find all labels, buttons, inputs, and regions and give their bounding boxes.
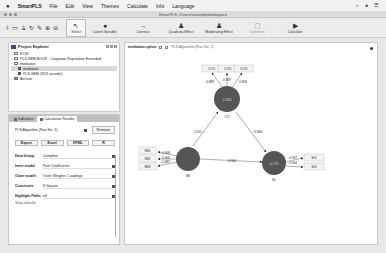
svg-text:IM: IM (186, 174, 190, 178)
results-icon (40, 118, 43, 121)
project-explorer-title: Project Explorer (18, 44, 49, 49)
tab-pls-algorithm[interactable]: PLS Algorithm (Run No. 1) (171, 45, 213, 49)
r-button[interactable]: R (92, 140, 115, 146)
prop-inner-model: Inner model Path Coefficients (15, 161, 115, 171)
svg-text:SL: SL (272, 178, 276, 182)
window-title: SmartPLS: /Users/smartpls/workspace (0, 12, 386, 17)
model-canvas[interactable]: mediation.splsm PLS Algorithm (Run No. 1… (124, 42, 378, 245)
svg-text:0.944: 0.944 (289, 161, 297, 165)
settings-icon[interactable] (370, 47, 373, 50)
folder-icon (11, 45, 16, 49)
maximize-icon[interactable] (114, 45, 117, 48)
menu-file[interactable]: File (50, 3, 58, 9)
svg-text:0.908: 0.908 (162, 151, 170, 155)
svg-text:0.887: 0.887 (162, 160, 170, 164)
zoom-in-icon[interactable]: ⊕ (45, 24, 50, 31)
svg-text:SI1: SI1 (311, 156, 316, 160)
dataset-icon (18, 72, 21, 75)
show-defaults-link[interactable]: Show defaults (15, 201, 119, 205)
toolbar: ⤓ ▭ ♙ ↻ ✎ ⊕ ⊖ ↖ Select ● Latent Variable… (0, 18, 386, 38)
menu-info[interactable]: Info (156, 3, 164, 9)
minimize-icon[interactable] (110, 45, 113, 48)
remove-button[interactable]: Remove (92, 126, 115, 134)
svg-text:0.511: 0.511 (194, 130, 202, 134)
menu-view[interactable]: View (82, 3, 93, 9)
user-icon[interactable]: ● (365, 2, 368, 9)
archive-icon (14, 77, 18, 80)
chevron-down-icon[interactable] (84, 129, 87, 132)
path-diagram: CO1 CO2 CO3 IM1 IM2 IM3 SI1 SI2 0.889 0.… (125, 51, 379, 246)
menu-calculate[interactable]: Calculate (127, 3, 148, 9)
collapse-icon[interactable] (106, 45, 109, 48)
highlight-paths-select[interactable]: off (43, 194, 112, 199)
svg-text:0.364: 0.364 (254, 130, 262, 134)
prop-constructs: Constructs R Square (15, 181, 115, 191)
svg-text:0.564: 0.564 (228, 159, 236, 163)
rotate-icon[interactable]: ↻ (29, 24, 34, 31)
close-tab-icon[interactable] (159, 46, 162, 49)
prop-data-group: Data Group Complete (15, 151, 115, 161)
tab-calculation-results[interactable]: Calculation Results (37, 116, 78, 122)
results-panel: Indicators Calculation Results PLS Algor… (8, 114, 120, 245)
svg-text:0.334: 0.334 (223, 98, 232, 102)
connect-button[interactable]: → Connect (124, 19, 162, 37)
title-bar: SmartPLS: /Users/smartpls/workspace (0, 11, 386, 18)
zoom-out-icon[interactable]: ⊖ (53, 24, 58, 31)
model-icon (18, 67, 21, 70)
import-icon[interactable]: ⤓ (6, 24, 9, 31)
construct-im (176, 147, 200, 171)
latent-variable-button[interactable]: ● Latent Variable (86, 19, 124, 37)
menu-themes[interactable]: Themes (101, 3, 119, 9)
outer-model-select[interactable]: Outer Weights / Loadings (43, 174, 112, 179)
menu-edit[interactable]: Edit (66, 3, 75, 9)
constructs-select[interactable]: R Square (43, 184, 112, 189)
tab-indicators[interactable]: Indicators (11, 116, 37, 122)
new-project-icon[interactable]: ▭ (12, 24, 18, 31)
tab-mediation-model[interactable]: mediation.splsm (128, 45, 156, 49)
svg-text:0.889: 0.889 (206, 80, 214, 84)
prop-highlight-paths: Highlight Paths off (15, 191, 115, 201)
person-icon: ♟ (178, 22, 184, 30)
scrollbar[interactable] (115, 155, 116, 237)
search-icon[interactable]: ⌕ (356, 2, 359, 9)
quadratic-effect-button[interactable]: ♟ Quadratic Effect (162, 19, 200, 37)
folder-icon (14, 52, 18, 55)
circle-icon: ● (103, 22, 107, 30)
algorithm-select[interactable]: PLS Algorithm (Run No. 1) (15, 128, 84, 132)
apple-icon[interactable]: ● (6, 3, 10, 9)
svg-text:CO: CO (225, 115, 230, 119)
comment-icon: ▢ (254, 22, 261, 30)
arrow-icon: → (140, 22, 147, 30)
html-button[interactable]: HTML (67, 140, 90, 146)
moderating-effect-button[interactable]: ♟ Moderating Effect (200, 19, 238, 37)
inner-model-select[interactable]: Path Coefficients (43, 164, 112, 169)
calculate-button[interactable]: ▶ Calculate (276, 19, 314, 37)
cursor-icon: ↖ (73, 22, 79, 30)
results-tab-icon (165, 46, 168, 49)
data-group-select[interactable]: Complete (43, 154, 112, 159)
play-icon: ▶ (293, 22, 298, 30)
prop-outer-model: Outer model Outer Weights / Loadings (15, 171, 115, 181)
menu-bar: ● SmartPLS File Edit View Themes Calcula… (0, 0, 386, 11)
menu-app[interactable]: SmartPLS (18, 3, 42, 9)
svg-text:0.929: 0.929 (223, 78, 231, 82)
excel-button[interactable]: Excel (41, 140, 64, 146)
svg-text:IM3: IM3 (145, 165, 151, 169)
menu-icon[interactable]: ☰ (374, 2, 378, 9)
comment-button[interactable]: ▢ Comment (238, 19, 276, 37)
svg-text:0.856: 0.856 (239, 80, 247, 84)
svg-text:CO3: CO3 (240, 67, 247, 71)
select-button[interactable]: ↖ Select (66, 19, 86, 37)
svg-text:0.937: 0.937 (289, 156, 297, 160)
project-explorer-panel: Project Explorer + ECSI + PLS-SEM BOOK -… (8, 42, 120, 112)
folder-icon (14, 62, 18, 65)
svg-text:IM1: IM1 (145, 149, 151, 153)
menu-language[interactable]: Language (172, 3, 194, 9)
tree-item-archive[interactable]: + Archive (11, 76, 117, 81)
person-icon[interactable]: ♙ (21, 24, 26, 31)
paint-icon[interactable]: ✎ (37, 24, 42, 31)
indicators-icon (14, 118, 17, 121)
export-button[interactable]: Export (15, 140, 38, 146)
svg-text:0.905: 0.905 (162, 156, 170, 160)
folder-icon (14, 57, 18, 60)
